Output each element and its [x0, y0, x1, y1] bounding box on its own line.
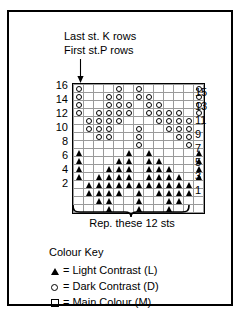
chart-cell[interactable] — [104, 173, 114, 181]
chart-cell[interactable] — [124, 117, 134, 125]
chart-cell[interactable] — [124, 85, 134, 93]
chart-cell[interactable] — [154, 125, 164, 133]
chart-cell[interactable] — [84, 189, 94, 197]
chart-cell[interactable] — [94, 189, 104, 197]
chart-cell[interactable] — [114, 165, 124, 173]
chart-cell[interactable] — [134, 157, 144, 165]
chart-cell[interactable] — [104, 181, 114, 189]
chart-cell[interactable] — [164, 189, 174, 197]
chart-cell[interactable] — [134, 117, 144, 125]
chart-cell[interactable] — [124, 149, 134, 157]
chart-cell[interactable] — [144, 141, 154, 149]
chart-cell[interactable] — [84, 85, 94, 93]
chart-cell[interactable] — [84, 165, 94, 173]
chart-cell[interactable] — [134, 85, 144, 93]
chart-cell[interactable] — [144, 181, 154, 189]
chart-cell[interactable] — [104, 109, 114, 117]
chart-cell[interactable] — [174, 181, 184, 189]
chart-cell[interactable] — [174, 189, 184, 197]
chart-cell[interactable] — [124, 157, 134, 165]
chart-cell[interactable] — [114, 181, 124, 189]
chart-cell[interactable] — [174, 117, 184, 125]
chart-cell[interactable] — [194, 205, 204, 213]
chart-cell[interactable] — [144, 157, 154, 165]
chart-cell[interactable] — [154, 149, 164, 157]
chart-cell[interactable] — [94, 117, 104, 125]
chart-cell[interactable] — [84, 93, 94, 101]
chart-cell[interactable] — [194, 197, 204, 205]
chart-cell[interactable] — [134, 149, 144, 157]
chart-cell[interactable] — [84, 125, 94, 133]
chart-cell[interactable] — [104, 189, 114, 197]
chart-cell[interactable] — [134, 189, 144, 197]
chart-cell[interactable] — [164, 109, 174, 117]
chart-cell[interactable] — [134, 133, 144, 141]
chart-cell[interactable] — [84, 173, 94, 181]
chart-cell[interactable] — [84, 149, 94, 157]
chart-cell[interactable] — [174, 101, 184, 109]
chart-cell[interactable] — [94, 157, 104, 165]
chart-cell[interactable] — [134, 173, 144, 181]
chart-cell[interactable] — [74, 157, 84, 165]
chart-cell[interactable] — [164, 149, 174, 157]
chart-cell[interactable] — [124, 93, 134, 101]
chart-cell[interactable] — [104, 165, 114, 173]
chart-cell[interactable] — [94, 173, 104, 181]
chart-cell[interactable] — [174, 157, 184, 165]
chart-cell[interactable] — [144, 85, 154, 93]
chart-cell[interactable] — [144, 109, 154, 117]
chart-cell[interactable] — [124, 189, 134, 197]
chart-cell[interactable] — [164, 133, 174, 141]
chart-cell[interactable] — [84, 181, 94, 189]
chart-cell[interactable] — [124, 133, 134, 141]
chart-cell[interactable] — [94, 181, 104, 189]
chart-cell[interactable] — [154, 165, 164, 173]
chart-cell[interactable] — [184, 149, 194, 157]
chart-cell[interactable] — [184, 85, 194, 93]
chart-cell[interactable] — [74, 189, 84, 197]
chart-cell[interactable] — [104, 117, 114, 125]
chart-cell[interactable] — [164, 181, 174, 189]
chart-cell[interactable] — [84, 109, 94, 117]
chart-cell[interactable] — [184, 125, 194, 133]
chart-cell[interactable] — [124, 125, 134, 133]
chart-cell[interactable] — [184, 173, 194, 181]
chart-cell[interactable] — [74, 117, 84, 125]
chart-cell[interactable] — [84, 133, 94, 141]
chart-cell[interactable] — [144, 149, 154, 157]
chart-cell[interactable] — [174, 141, 184, 149]
chart-cell[interactable] — [84, 117, 94, 125]
chart-cell[interactable] — [104, 93, 114, 101]
chart-cell[interactable] — [154, 141, 164, 149]
chart-cell[interactable] — [114, 109, 124, 117]
chart-cell[interactable] — [174, 149, 184, 157]
chart-cell[interactable] — [74, 165, 84, 173]
chart-cell[interactable] — [134, 101, 144, 109]
chart-cell[interactable] — [74, 141, 84, 149]
chart-cell[interactable] — [114, 117, 124, 125]
chart-cell[interactable] — [114, 189, 124, 197]
chart-cell[interactable] — [104, 133, 114, 141]
chart-cell[interactable] — [184, 165, 194, 173]
chart-cell[interactable] — [104, 85, 114, 93]
chart-cell[interactable] — [174, 125, 184, 133]
chart-cell[interactable] — [114, 173, 124, 181]
chart-cell[interactable] — [124, 141, 134, 149]
chart-cell[interactable] — [134, 165, 144, 173]
chart-cell[interactable] — [114, 93, 124, 101]
chart-cell[interactable] — [114, 157, 124, 165]
chart-cell[interactable] — [164, 117, 174, 125]
chart-cell[interactable] — [164, 165, 174, 173]
chart-cell[interactable] — [144, 125, 154, 133]
chart-cell[interactable] — [174, 93, 184, 101]
chart-cell[interactable] — [164, 93, 174, 101]
chart-cell[interactable] — [154, 93, 164, 101]
chart-cell[interactable] — [74, 149, 84, 157]
chart-cell[interactable] — [84, 101, 94, 109]
chart-cell[interactable] — [104, 101, 114, 109]
chart-cell[interactable] — [74, 181, 84, 189]
chart-cell[interactable] — [114, 101, 124, 109]
chart-cell[interactable] — [174, 85, 184, 93]
chart-cell[interactable] — [184, 141, 194, 149]
chart-cell[interactable] — [94, 101, 104, 109]
